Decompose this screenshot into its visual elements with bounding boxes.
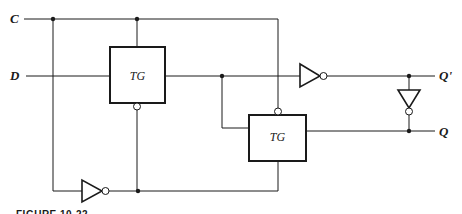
input-label-d: D (9, 68, 20, 83)
inverter-forward-icon (300, 64, 327, 87)
output-label-q: Q (439, 124, 449, 139)
junction-dot (407, 129, 411, 133)
wire-q-prime (327, 74, 435, 90)
tg2-control-bubble (275, 108, 282, 115)
junction-dot (407, 74, 411, 78)
junction-dot (51, 17, 55, 21)
transmission-gate-1: TG (110, 47, 165, 110)
wire-c-inverted (53, 110, 278, 193)
tg1-label: TG (130, 69, 146, 83)
junction-dot (136, 189, 140, 193)
wire-q (306, 115, 435, 133)
inverter-feedback-icon (398, 90, 420, 115)
inverter-c-icon (82, 180, 109, 202)
flip-flop-circuit-diagram: C D TG TG (0, 0, 462, 214)
output-label-q-prime: Q' (439, 68, 452, 83)
transmission-gate-2: TG (249, 108, 306, 161)
tg2-label: TG (270, 130, 286, 144)
figure-caption: FIGURE 10-22 (16, 209, 88, 214)
junction-dot (135, 17, 139, 21)
input-label-c: C (10, 11, 19, 26)
junction-dot (220, 74, 224, 78)
tg1-control-bubble (134, 103, 141, 110)
